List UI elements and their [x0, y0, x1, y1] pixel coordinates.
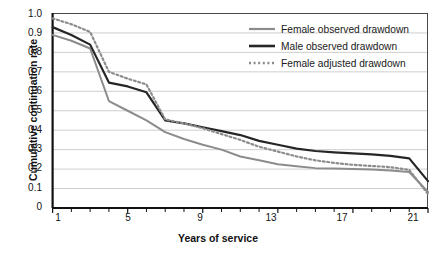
legend-label-female-observed: Female observed drawdown [281, 24, 409, 35]
x-tick-marks [53, 208, 428, 213]
plot-canvas: Female observed drawdown Male observed d… [0, 0, 436, 253]
chart-figure: Cumulative continuation rate Years of se… [0, 0, 436, 253]
legend-label-male-observed: Male observed drawdown [281, 41, 397, 52]
chart-legend: Female observed drawdown Male observed d… [249, 24, 409, 69]
legend-label-female-adjusted: Female adjusted drawdown [281, 58, 406, 69]
